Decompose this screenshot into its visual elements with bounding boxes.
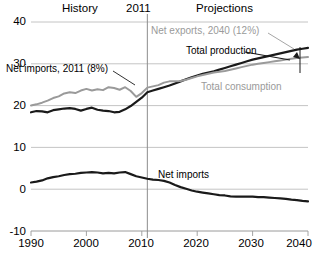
y-tick-label-40: 40 (2, 16, 26, 28)
net-imports-callout: Net imports, 2011 (8%) (6, 64, 108, 74)
total-consumption-label: Total consumption (201, 82, 282, 92)
x-tick-label-2030: 2030 (229, 238, 273, 250)
x-tick-label-1990: 1990 (9, 238, 53, 250)
divider-year-label: 2011 (126, 3, 151, 15)
x-tick-label-2000: 2000 (64, 238, 108, 250)
x-tick-label-2010: 2010 (119, 238, 163, 250)
projections-label: Projections (196, 3, 253, 15)
total-production-label: Total production (186, 46, 257, 56)
chart-container: 40 30 20 10 0 -10 1990 2000 2010 2020 20… (0, 0, 316, 255)
y-tick-label-20: 20 (2, 100, 26, 112)
net-imports-label: Net imports (158, 170, 209, 180)
net-exports-leader-line (268, 33, 294, 49)
x-tick-label-2040: 2040 (282, 238, 316, 250)
x-axis-tick-marks (31, 231, 308, 236)
y-tick-label-0: 0 (2, 184, 26, 196)
gridlines (31, 22, 308, 189)
history-label: History (62, 3, 98, 15)
y-tick-label-neg10: -10 (0, 226, 26, 238)
x-tick-label-2020: 2020 (174, 238, 218, 250)
chart-plot-area (0, 0, 316, 255)
callout-leader-lines (113, 33, 300, 85)
net-exports-callout: Net exports, 2040 (12%) (151, 26, 259, 36)
net-imports-leader-line (113, 71, 135, 85)
y-tick-label-10: 10 (2, 142, 26, 154)
